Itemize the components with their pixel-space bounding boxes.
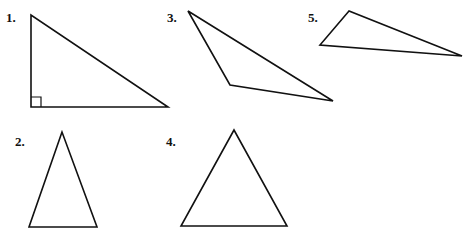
figure-4: 4. — [166, 130, 287, 226]
figure-label-5: 5. — [308, 10, 318, 25]
triangles-diagram: 1. 3. 5. 2. 4. — [0, 0, 475, 236]
right-triangle — [31, 15, 168, 107]
figure-2: 2. — [15, 132, 97, 227]
right-angle-marker-icon — [31, 97, 41, 107]
equilateral-triangle — [181, 130, 287, 226]
figure-label-3: 3. — [167, 10, 177, 25]
figure-1: 1. — [6, 10, 168, 107]
obtuse-triangle-5 — [320, 11, 462, 56]
figure-label-2: 2. — [15, 134, 25, 149]
figure-label-1: 1. — [6, 10, 16, 25]
isosceles-triangle — [29, 132, 97, 227]
figure-label-4: 4. — [166, 134, 176, 149]
figure-5: 5. — [308, 10, 462, 56]
